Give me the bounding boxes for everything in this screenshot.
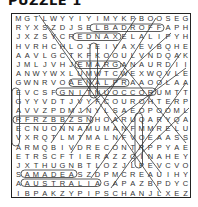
grid-cell[interactable]: L (146, 32, 155, 41)
grid-cell[interactable]: P (128, 14, 137, 23)
grid-cell[interactable]: D (49, 97, 58, 106)
grid-cell[interactable]: J (120, 161, 129, 170)
grid-cell[interactable]: L (102, 106, 111, 115)
grid-cell[interactable]: A (67, 179, 76, 188)
grid-cell[interactable]: E (164, 124, 173, 133)
grid-cell[interactable]: D (76, 143, 85, 152)
grid-cell[interactable]: P (120, 179, 129, 188)
grid-cell[interactable]: V (111, 42, 120, 51)
grid-cell[interactable]: A (23, 179, 32, 188)
grid-cell[interactable]: L (67, 69, 76, 78)
grid-cell[interactable]: W (120, 69, 129, 78)
grid-cell[interactable]: Z (40, 115, 49, 124)
grid-cell[interactable]: O (111, 143, 120, 152)
grid-cell[interactable]: R (172, 97, 181, 106)
grid-cell[interactable]: U (146, 60, 155, 69)
grid-cell[interactable]: N (84, 106, 93, 115)
grid-cell[interactable]: U (40, 124, 49, 133)
grid-cell[interactable]: F (128, 124, 137, 133)
grid-cell[interactable]: E (120, 32, 129, 41)
grid-cell[interactable]: R (14, 23, 23, 32)
grid-cell[interactable]: T (155, 97, 164, 106)
grid-cell[interactable]: N (32, 78, 41, 87)
grid-cell[interactable]: K (120, 14, 129, 23)
grid-cell[interactable]: S (40, 152, 49, 161)
grid-cell[interactable]: A (137, 60, 146, 69)
grid-cell[interactable]: A (137, 32, 146, 41)
grid-cell[interactable]: A (155, 133, 164, 142)
grid-cell[interactable]: M (172, 106, 181, 115)
grid-cell[interactable]: M (32, 143, 41, 152)
grid-cell[interactable]: N (58, 124, 67, 133)
grid-cell[interactable]: E (181, 69, 190, 78)
grid-cell[interactable]: E (172, 189, 181, 198)
grid-cell[interactable]: Z (181, 189, 190, 198)
grid-cell[interactable]: F (120, 133, 129, 142)
grid-cell[interactable]: N (84, 115, 93, 124)
grid-cell[interactable]: Z (111, 161, 120, 170)
grid-cell[interactable]: A (93, 60, 102, 69)
grid-cell[interactable]: L (93, 161, 102, 170)
grid-cell[interactable]: A (14, 51, 23, 60)
grid-cell[interactable]: Q (164, 42, 173, 51)
grid-cell[interactable]: A (181, 78, 190, 87)
grid-cell[interactable]: I (84, 179, 93, 188)
grid-cell[interactable]: A (40, 170, 49, 179)
grid-cell[interactable]: L (128, 32, 137, 41)
grid-cell[interactable]: D (84, 32, 93, 41)
grid-cell[interactable]: I (164, 170, 173, 179)
grid-cell[interactable]: D (49, 170, 58, 179)
grid-cell[interactable]: H (146, 97, 155, 106)
grid-cell[interactable]: O (137, 97, 146, 106)
grid-cell[interactable]: M (111, 170, 120, 179)
grid-cell[interactable]: B (102, 23, 111, 32)
grid-cell[interactable]: E (137, 42, 146, 51)
grid-cell[interactable]: P (155, 179, 164, 188)
grid-cell[interactable]: X (23, 32, 32, 41)
grid-cell[interactable]: S (181, 133, 190, 142)
grid-cell[interactable]: J (14, 32, 23, 41)
grid-cell[interactable]: I (93, 14, 102, 23)
grid-cell[interactable]: V (49, 78, 58, 87)
grid-cell[interactable]: Z (67, 115, 76, 124)
grid-cell[interactable]: A (137, 78, 146, 87)
grid-cell[interactable]: J (67, 60, 76, 69)
grid-cell[interactable]: M (23, 60, 32, 69)
grid-cell[interactable]: V (164, 69, 173, 78)
grid-cell[interactable]: S (40, 179, 49, 188)
grid-cell[interactable]: M (164, 88, 173, 97)
grid-cell[interactable]: Y (84, 14, 93, 23)
grid-cell[interactable]: Y (67, 189, 76, 198)
grid-cell[interactable]: Y (23, 23, 32, 32)
grid-cell[interactable]: Q (164, 51, 173, 60)
grid-cell[interactable]: M (67, 106, 76, 115)
grid-cell[interactable]: E (14, 124, 23, 133)
grid-cell[interactable]: S (102, 189, 111, 198)
grid-cell[interactable]: X (32, 23, 41, 32)
grid-cell[interactable]: X (137, 69, 146, 78)
grid-cell[interactable]: K (93, 51, 102, 60)
grid-cell[interactable]: G (58, 88, 67, 97)
grid-cell[interactable]: V (172, 161, 181, 170)
grid-cell[interactable]: Y (32, 97, 41, 106)
grid-cell[interactable]: Q (155, 69, 164, 78)
grid-cell[interactable]: P (164, 32, 173, 41)
grid-cell[interactable]: V (137, 51, 146, 60)
grid-cell[interactable]: E (128, 69, 137, 78)
grid-cell[interactable]: Y (172, 32, 181, 41)
grid-cell[interactable]: I (84, 189, 93, 198)
grid-cell[interactable]: L (128, 161, 137, 170)
grid-cell[interactable]: Z (111, 152, 120, 161)
grid-cell[interactable]: U (120, 97, 129, 106)
grid-cell[interactable]: A (23, 170, 32, 179)
grid-cell[interactable]: T (23, 152, 32, 161)
grid-cell[interactable]: X (23, 161, 32, 170)
grid-cell[interactable]: L (67, 42, 76, 51)
grid-cell[interactable]: Q (137, 115, 146, 124)
grid-cell[interactable]: V (23, 106, 32, 115)
grid-cell[interactable]: Z (40, 106, 49, 115)
grid-cell[interactable]: A (172, 78, 181, 87)
grid-cell[interactable]: P (32, 189, 41, 198)
grid-cell[interactable]: C (102, 143, 111, 152)
grid-cell[interactable]: E (181, 42, 190, 51)
